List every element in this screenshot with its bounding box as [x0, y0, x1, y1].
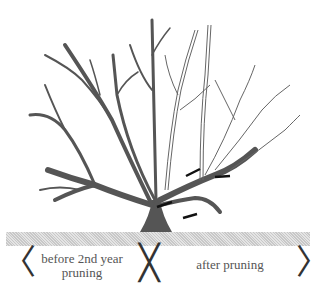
- tree-diagram: [0, 0, 327, 293]
- left-bracket: 〈: [2, 244, 36, 280]
- dark-branches: [30, 20, 255, 212]
- divider-bracket: ╳: [139, 244, 159, 280]
- before-pruning-label: before 2nd year pruning: [32, 252, 132, 280]
- after-pruning-label: after pruning: [175, 258, 285, 272]
- right-bracket: 〉: [296, 244, 327, 280]
